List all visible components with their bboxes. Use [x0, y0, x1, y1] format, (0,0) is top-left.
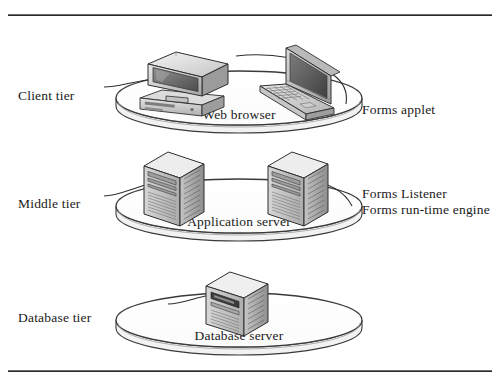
- callout-forms-runtime-line2: Forms run-time engine: [362, 202, 490, 218]
- figure-top-rule: [8, 14, 492, 16]
- callout-forms-applet: Forms applet: [362, 102, 435, 118]
- desktop-computer-icon: [132, 46, 236, 124]
- callout-forms-listener-line1: Forms Listener: [362, 186, 447, 201]
- tower-server-icon-2: [262, 148, 334, 234]
- tower-server-icon-1: [138, 148, 210, 234]
- laptop-computer-icon: [256, 42, 358, 124]
- tier-middle: Middle tier Application server: [0, 140, 500, 260]
- tier-database: Database tier Database server: [0, 258, 500, 378]
- database-server-icon: [200, 264, 274, 346]
- figure-bottom-rule: [8, 370, 492, 372]
- tier-client: Client tier Web browser: [0, 22, 500, 142]
- three-tier-architecture-figure: Client tier Web browser: [0, 0, 500, 389]
- callout-forms-listener: Forms Listener Forms run-time engine: [362, 186, 490, 217]
